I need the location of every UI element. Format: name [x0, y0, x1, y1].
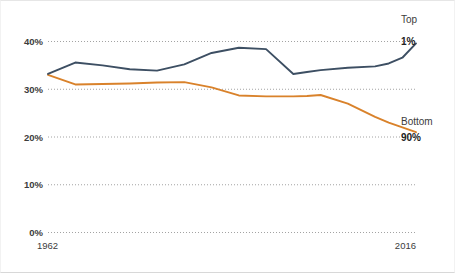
y-tick-label-30: 30%	[24, 84, 44, 95]
series-label-bottom-word: Bottom	[401, 116, 433, 127]
line-chart: 40% 30% 20% 10% 0% 1962 2016 Top 1% Bott…	[1, 1, 455, 273]
y-tick-label-20: 20%	[24, 132, 44, 143]
y-tick-label-0: 0%	[29, 227, 43, 238]
gridlines	[48, 42, 416, 233]
chart-figure: 40% 30% 20% 10% 0% 1962 2016 Top 1% Bott…	[0, 0, 455, 273]
series-line-top-1	[48, 43, 416, 74]
series-line-bottom-90	[48, 75, 416, 132]
x-tick-label-start: 1962	[37, 240, 58, 251]
series-label-top-value: 1%	[401, 36, 416, 47]
y-tick-label-40: 40%	[24, 36, 44, 47]
series-label-top-group: Top 1%	[401, 14, 418, 47]
series-label-top-word: Top	[401, 14, 418, 25]
x-axis-labels: 1962 2016	[37, 240, 416, 251]
y-axis-labels: 40% 30% 20% 10% 0%	[24, 36, 44, 238]
series-label-bottom-value: 90%	[401, 132, 421, 143]
y-tick-label-10: 10%	[24, 179, 44, 190]
x-tick-label-end: 2016	[395, 240, 416, 251]
